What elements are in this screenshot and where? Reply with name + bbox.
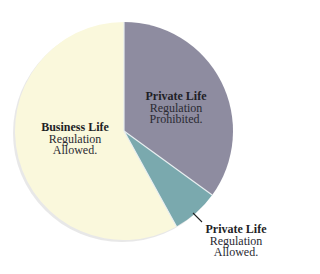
slice-label-business-life-allowed: Business Life Regulation Allowed. [34, 122, 116, 157]
slice-label-line: Prohibited. [140, 114, 212, 126]
slice-label-private-life-allowed: Private Life Regulation Allowed. [201, 224, 271, 259]
slice-label-private-life-prohibited: Private Life Regulation Prohibited. [140, 91, 212, 126]
leader-line [193, 213, 202, 222]
slice-label-line: Allowed. [34, 145, 116, 157]
slice-label-line: Allowed. [201, 247, 271, 259]
